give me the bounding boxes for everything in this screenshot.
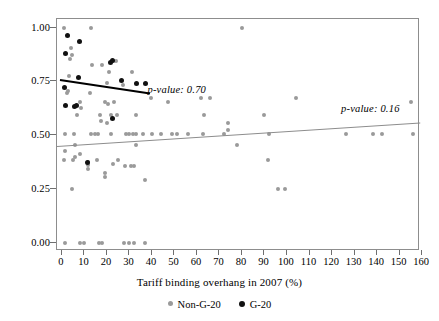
- x-tick-mark: [83, 250, 84, 255]
- data-point-nong20: [68, 57, 72, 61]
- y-tick-label: 0.00: [31, 236, 50, 247]
- x-tick-label: 40: [146, 256, 157, 267]
- data-point-nong20: [82, 241, 86, 245]
- x-tick-label: 130: [346, 256, 362, 267]
- x-tick-mark: [61, 250, 62, 255]
- y-tick-mark: [50, 27, 56, 28]
- data-point-nong20: [88, 91, 92, 95]
- data-point-nong20: [63, 149, 67, 153]
- data-point-nong20: [109, 132, 113, 136]
- data-point-nong20: [409, 100, 413, 104]
- data-point-nong20: [411, 132, 415, 136]
- data-point-nong20: [78, 152, 82, 156]
- data-point-nong20: [100, 241, 104, 245]
- data-point-nong20: [121, 83, 125, 87]
- x-tick-mark: [173, 250, 174, 255]
- data-point-nong20: [107, 70, 111, 74]
- x-tick-label: 140: [368, 256, 384, 267]
- data-point-nong20: [149, 96, 153, 100]
- data-point-nong20: [266, 158, 270, 162]
- data-point-nong20: [98, 113, 102, 117]
- data-point-nong20: [86, 167, 90, 171]
- data-point-nong20: [62, 158, 66, 162]
- data-point-g20: [76, 75, 81, 80]
- x-tick-mark: [286, 250, 287, 255]
- y-tick-mark: [50, 80, 56, 81]
- g20-pvalue: p-value: 0.70: [147, 84, 206, 95]
- x-tick-mark: [218, 250, 219, 255]
- data-point-nong20: [62, 26, 66, 30]
- data-point-nong20: [380, 132, 384, 136]
- data-point-nong20: [294, 96, 298, 100]
- legend-label: G-20: [250, 299, 272, 310]
- x-tick-label: 90: [258, 256, 269, 267]
- data-point-nong20: [134, 143, 138, 147]
- data-point-nong20: [283, 187, 287, 191]
- data-point-nong20: [226, 128, 230, 132]
- data-point-nong20: [127, 241, 131, 245]
- data-point-nong20: [199, 96, 203, 100]
- x-tick-label: 150: [391, 256, 407, 267]
- x-tick-mark: [106, 250, 107, 255]
- data-point-nong20: [111, 162, 115, 166]
- data-point-nong20: [132, 241, 136, 245]
- y-tick-mark: [50, 188, 56, 189]
- data-point-nong20: [70, 187, 74, 191]
- x-tick-mark: [309, 250, 310, 255]
- data-point-g20: [119, 78, 124, 83]
- y-tick-label: 0.50: [31, 129, 50, 140]
- y-tick-mark: [50, 134, 56, 135]
- data-point-nong20: [78, 241, 82, 245]
- data-point-nong20: [122, 241, 126, 245]
- data-point-nong20: [186, 132, 190, 136]
- data-point-nong20: [134, 113, 138, 117]
- y-tick-label: 0.25: [31, 183, 50, 194]
- x-tick-label: 110: [301, 256, 316, 267]
- data-point-g20: [63, 51, 68, 56]
- x-tick-mark: [151, 250, 152, 255]
- x-tick-mark: [196, 250, 197, 255]
- data-point-nong20: [141, 132, 145, 136]
- plot-area: p-value: 0.70p-value: 0.16: [56, 18, 419, 250]
- data-point-nong20: [170, 132, 174, 136]
- data-point-nong20: [106, 102, 110, 106]
- data-point-nong20: [103, 175, 107, 179]
- data-point-nong20: [116, 158, 120, 162]
- x-tick-mark: [399, 250, 400, 255]
- x-tick-mark: [128, 250, 129, 255]
- x-tick-label: 0: [58, 256, 63, 267]
- x-tick-label: 10: [78, 256, 89, 267]
- data-point-nong20: [89, 26, 93, 30]
- data-point-nong20: [73, 155, 77, 159]
- data-point-nong20: [63, 241, 67, 245]
- data-point-nong20: [150, 132, 154, 136]
- data-point-nong20: [130, 70, 134, 74]
- data-point-nong20: [143, 178, 147, 182]
- data-point-nong20: [63, 132, 67, 136]
- data-point-nong20: [344, 132, 348, 136]
- data-point-nong20: [99, 119, 103, 123]
- data-point-g20: [77, 39, 82, 44]
- legend-label: Non-G-20: [178, 299, 221, 310]
- y-axis-tick-labels: 0.000.250.500.751.00: [0, 0, 50, 321]
- x-tick-mark: [354, 250, 355, 255]
- data-point-nong20: [65, 91, 69, 95]
- x-tick-mark: [331, 250, 332, 255]
- data-point-nong20: [235, 143, 239, 147]
- data-point-nong20: [166, 100, 170, 104]
- x-tick-label: 30: [123, 256, 134, 267]
- x-tick-label: 70: [213, 256, 224, 267]
- data-point-nong20: [105, 81, 109, 85]
- data-point-g20: [110, 116, 115, 121]
- scatter-plot-figure: 0.000.250.500.751.00 0102030405060708090…: [0, 0, 439, 321]
- dot-icon: [168, 301, 173, 306]
- dot-icon: [239, 301, 245, 307]
- legend-entry-g20[interactable]: G-20: [239, 298, 272, 310]
- data-point-nong20: [276, 187, 280, 191]
- x-tick-mark: [376, 250, 377, 255]
- legend-entry-nong20[interactable]: Non-G-20: [168, 298, 221, 310]
- data-point-nong20: [123, 164, 127, 168]
- data-point-nong20: [208, 96, 212, 100]
- x-tick-mark: [263, 250, 264, 255]
- x-tick-label: 20: [101, 256, 112, 267]
